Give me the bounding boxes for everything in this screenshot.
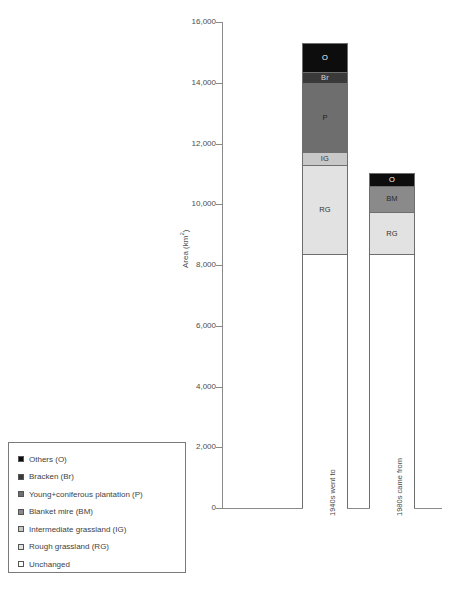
y-tick-mark — [216, 326, 222, 327]
bar-segment[interactable]: O — [303, 44, 347, 73]
y-tick-mark — [216, 447, 222, 448]
bar-segment-label: RG — [319, 206, 331, 214]
legend-item-label: Bracken (Br) — [29, 472, 74, 481]
bar-segment[interactable]: O — [370, 174, 414, 187]
y-tick-mark — [216, 387, 222, 388]
legend-swatch-icon — [18, 509, 24, 515]
legend-swatch-icon — [18, 456, 24, 462]
bar-segment-label: O — [389, 176, 395, 184]
bar-segment-label: O — [322, 54, 328, 62]
y-tick-label: 16,000 — [170, 18, 216, 26]
legend-item-label: Blanket mire (BM) — [29, 507, 93, 516]
bar-segment[interactable]: IG — [303, 153, 347, 166]
bar-segment-label: BM — [386, 195, 398, 203]
y-tick-mark — [216, 144, 222, 145]
legend-swatch-icon — [18, 491, 24, 497]
bar-segment[interactable]: BM — [370, 187, 414, 213]
chart-legend: Others (O)Bracken (Br)Young+coniferous p… — [8, 442, 186, 573]
bar-segment[interactable] — [303, 255, 347, 509]
legend-item[interactable]: Others (O) — [18, 454, 67, 464]
bar-segment[interactable]: Br — [303, 73, 347, 84]
y-tick-label-wrap: 10,000 — [160, 200, 216, 208]
bar-segment-label: Br — [321, 74, 329, 82]
bar-segment[interactable]: RG — [370, 213, 414, 256]
y-tick-label: 8,000 — [170, 261, 216, 269]
y-tick-label-wrap: 6,000 — [160, 322, 216, 330]
y-tick-label: 4,000 — [170, 383, 216, 391]
bar-segment-label: RG — [386, 230, 398, 238]
legend-item[interactable]: Young+coniferous plantation (P) — [18, 489, 143, 499]
y-tick-label-wrap: 16,000 — [160, 18, 216, 26]
y-axis-title-tail: ) — [181, 230, 190, 233]
y-tick-label: 12,000 — [170, 140, 216, 148]
legend-swatch-icon — [18, 474, 24, 480]
y-tick-label: 6,000 — [170, 322, 216, 330]
legend-swatch-icon — [18, 544, 24, 550]
bar-segment-label: IG — [321, 155, 329, 163]
legend-item[interactable]: Bracken (Br) — [18, 472, 74, 482]
y-axis-line — [222, 22, 223, 509]
legend-item-label: Others (O) — [29, 455, 67, 464]
y-tick-label-wrap: 12,000 — [160, 140, 216, 148]
bar-segment-label: P — [322, 114, 327, 122]
legend-swatch-icon — [18, 526, 24, 532]
legend-item-label: Rough grassland (RG) — [29, 542, 109, 551]
y-tick-label: 10,000 — [170, 200, 216, 208]
legend-item[interactable]: Rough grassland (RG) — [18, 542, 109, 552]
y-tick-mark — [216, 265, 222, 266]
legend-item[interactable]: Unchanged — [18, 559, 70, 569]
legend-item-label: Intermediate grassland (IG) — [29, 525, 126, 534]
y-axis-title: Area (km2) — [178, 209, 190, 289]
x-category-label: 1940s went to — [329, 469, 337, 516]
bar-segment[interactable]: P — [303, 84, 347, 153]
y-tick-label-wrap: 14,000 — [160, 79, 216, 87]
y-axis-title-exponent: 2 — [179, 232, 185, 235]
bar-segment[interactable]: RG — [303, 166, 347, 256]
legend-item[interactable]: Blanket mire (BM) — [18, 507, 93, 517]
legend-item[interactable]: Intermediate grassland (IG) — [18, 524, 126, 534]
y-tick-mark — [216, 22, 222, 23]
stacked-bar[interactable]: RGBMO — [369, 173, 415, 508]
bar-segment[interactable] — [370, 255, 414, 509]
y-tick-mark — [216, 83, 222, 84]
y-tick-label-wrap: 8,000 — [160, 261, 216, 269]
legend-item-label: Unchanged — [29, 560, 70, 569]
y-tick-label: 14,000 — [170, 79, 216, 87]
y-tick-label-wrap: 4,000 — [160, 383, 216, 391]
x-category-label: 1980s came from — [396, 458, 404, 516]
stacked-bar[interactable]: RGIGPBrO — [302, 43, 348, 508]
y-tick-mark — [216, 204, 222, 205]
legend-item-label: Young+coniferous plantation (P) — [29, 490, 143, 499]
legend-swatch-icon — [18, 561, 24, 567]
y-tick-mark — [216, 508, 222, 509]
